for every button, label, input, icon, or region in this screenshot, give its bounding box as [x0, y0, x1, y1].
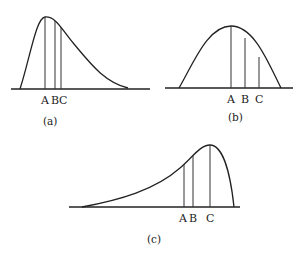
panel-b: A B C (b) [165, 26, 293, 123]
panel-c: A B C (c) [69, 145, 240, 245]
panel-a: A B C (a) [11, 17, 150, 127]
panel-a-label-b: B [51, 94, 59, 107]
panel-a-curve [20, 17, 128, 89]
panel-c-label-a: A [178, 212, 188, 225]
distribution-figure: A B C (a) A B C (b) A B C (c) [0, 0, 303, 256]
panel-c-caption: (c) [147, 233, 161, 245]
panel-c-curve [82, 145, 234, 207]
panel-a-caption: (a) [43, 115, 57, 127]
panel-a-label-c: C [59, 94, 67, 107]
panel-c-label-c: C [206, 212, 214, 225]
panel-b-label-b: B [241, 93, 249, 106]
panel-c-label-b: B [189, 212, 197, 225]
panel-b-curve [179, 26, 281, 88]
panel-a-label-a: A [40, 94, 50, 107]
panel-b-caption: (b) [228, 111, 243, 123]
panel-b-label-c: C [255, 93, 263, 106]
panel-b-label-a: A [226, 93, 236, 106]
